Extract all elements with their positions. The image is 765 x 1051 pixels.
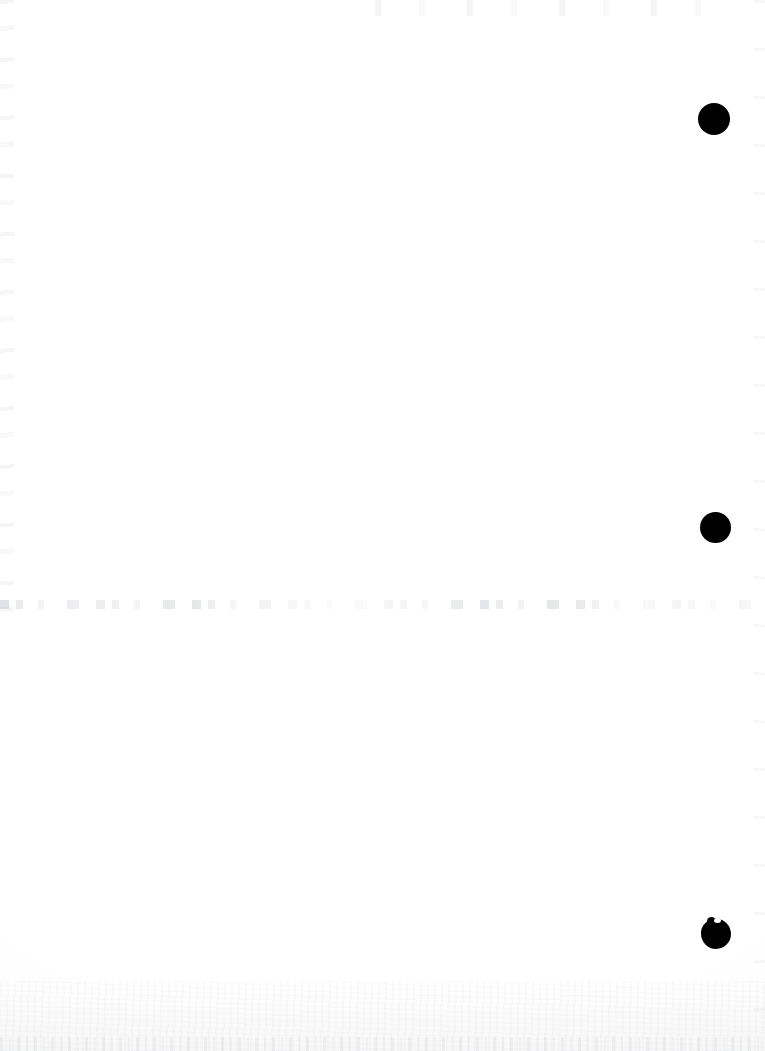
paper-background [0,0,765,1051]
ink-mark-top: Mark 1 [698,103,730,135]
scanned-page: Mark 1 Mark 2 Mark 3 [0,0,765,1051]
ink-mark-middle-label: Mark 2 [700,512,701,513]
ink-mark-top-label: Mark 1 [698,103,699,104]
scanner-noise-left-edge [0,0,14,620]
ink-mark-bottom: Mark 3 [701,919,731,949]
scanner-noise-bottom-edge [0,1037,765,1051]
scanner-noise-top-edge [375,0,725,16]
page-body-text [0,0,1,1]
ink-mark-bottom-notch [714,918,721,923]
scanner-noise-right-edge [753,0,765,1051]
ink-mark-bottom-label: Mark 3 [701,919,702,920]
ink-mark-middle: Mark 2 [700,512,731,543]
paper-grain-bottom [0,981,765,1051]
dust-line-artifact [0,600,765,609]
